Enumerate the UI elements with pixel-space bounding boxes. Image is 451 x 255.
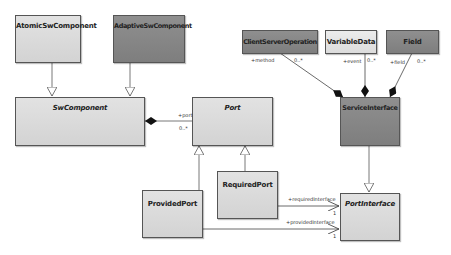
role-event: +event bbox=[343, 58, 361, 64]
class-name: AtomicSwComponent bbox=[16, 22, 80, 30]
class-provided-port[interactable]: ProvidedPort bbox=[142, 190, 203, 238]
class-name: RequiredPort bbox=[218, 181, 277, 189]
class-name: PortInterface bbox=[341, 200, 399, 208]
class-name: SwComponent bbox=[16, 104, 144, 112]
mult-provided-interface: 1 bbox=[333, 233, 336, 239]
mult-event: 0..* bbox=[367, 57, 376, 63]
class-service-interface[interactable]: ServiceInterface bbox=[340, 97, 400, 146]
class-adaptive-sw-component[interactable]: AdaptiveSwComponent bbox=[113, 15, 185, 63]
class-client-server-operation[interactable]: ClientServerOperation bbox=[242, 30, 318, 54]
class-port-interface[interactable]: PortInterface bbox=[340, 193, 400, 241]
mult-field: 0..* bbox=[417, 58, 426, 64]
class-name: ClientServerOperation bbox=[243, 38, 317, 46]
class-atomic-sw-component[interactable]: AtomicSwComponent bbox=[15, 15, 81, 63]
class-field[interactable]: Field bbox=[386, 30, 439, 54]
class-name: ServiceInterface bbox=[341, 104, 399, 112]
class-name: AdaptiveSwComponent bbox=[114, 22, 184, 30]
class-name: VariableData bbox=[326, 38, 376, 46]
class-required-port[interactable]: RequiredPort bbox=[217, 171, 278, 219]
class-name: ProvidedPort bbox=[143, 200, 202, 208]
mult-port: 0..* bbox=[179, 125, 188, 131]
class-variable-data[interactable]: VariableData bbox=[325, 30, 377, 54]
mult-method: 0..* bbox=[294, 57, 303, 63]
class-sw-component[interactable]: SwComponent bbox=[15, 97, 145, 146]
role-method: +method bbox=[251, 57, 275, 63]
role-required-interface: +requiredInterface bbox=[288, 196, 336, 202]
class-name: Port bbox=[193, 104, 272, 112]
mult-required-interface: 1 bbox=[333, 210, 336, 216]
composition-service-cso bbox=[280, 53, 343, 97]
role-provided-interface: +providedInterface bbox=[286, 219, 335, 225]
class-port[interactable]: Port bbox=[192, 97, 273, 146]
role-field: +field bbox=[390, 59, 405, 65]
role-port: +port bbox=[178, 112, 192, 118]
class-name: Field bbox=[387, 38, 438, 46]
